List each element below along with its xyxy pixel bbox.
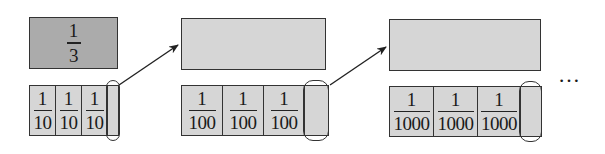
continuation-ellipsis: … (558, 64, 583, 86)
arrows-layer (0, 0, 605, 154)
arrow-icon (330, 47, 386, 85)
arrow-icon (119, 45, 178, 85)
